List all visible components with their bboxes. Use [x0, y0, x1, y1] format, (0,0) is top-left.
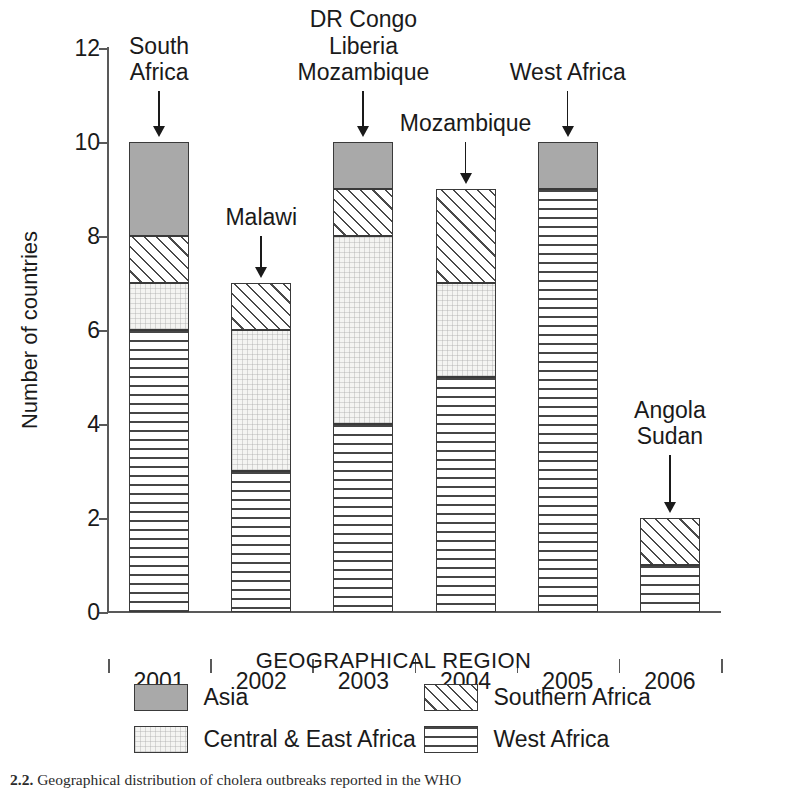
annotation-arrow-2006: [663, 455, 677, 513]
arrow-head-icon: [153, 126, 165, 137]
legend-item-central[interactable]: Central & East Africa: [134, 726, 416, 753]
annotation-label-2002: Malawi: [151, 204, 371, 230]
bar-segment-2004-west[interactable]: [436, 377, 496, 612]
bar-segment-2001-southern[interactable]: [129, 236, 189, 283]
y-tick-label: 6: [87, 319, 100, 342]
legend-item-asia[interactable]: Asia: [134, 684, 249, 711]
legend-swatch-central: [134, 726, 188, 753]
y-tick-label: 8: [87, 225, 100, 248]
plot-area: Number of countries 024681012 South Afri…: [108, 48, 721, 612]
annotation-label-2001: South Africa: [49, 33, 269, 85]
legend-label: Southern Africa: [494, 684, 651, 711]
arrow-shaft: [669, 455, 671, 503]
legend-title: GEOGRAPHICAL REGION: [0, 648, 787, 674]
bar-segment-2001-central[interactable]: [129, 283, 189, 330]
y-tick-label: 4: [87, 413, 100, 436]
bar-segment-2006-southern[interactable]: [640, 518, 700, 565]
legend-label: Asia: [204, 684, 249, 711]
legend-items: AsiaSouthern AfricaCentral & East Africa…: [134, 684, 654, 762]
legend-swatch-west: [424, 726, 478, 753]
legend-label: Central & East Africa: [204, 726, 416, 753]
y-tick-mark: [99, 612, 108, 614]
bar-segment-2002-west[interactable]: [231, 471, 291, 612]
y-tick-mark: [99, 142, 108, 144]
y-tick-mark: [99, 424, 108, 426]
y-tick-mark: [99, 330, 108, 332]
bar-segment-2003-west[interactable]: [333, 424, 393, 612]
bar-segment-2005-asia[interactable]: [538, 142, 598, 189]
arrow-head-icon: [255, 267, 267, 278]
arrow-head-icon: [664, 502, 676, 513]
bar-segment-2006-west[interactable]: [640, 565, 700, 612]
legend-item-southern[interactable]: Southern Africa: [424, 684, 651, 711]
y-tick-mark: [99, 236, 108, 238]
legend: GEOGRAPHICAL REGION AsiaSouthern AfricaC…: [0, 648, 787, 762]
legend-swatch-southern: [424, 684, 478, 711]
figure-caption: 2.2. Geographical distribution of choler…: [10, 770, 785, 789]
bar-2002[interactable]: [231, 48, 291, 612]
bar-segment-2003-asia[interactable]: [333, 142, 393, 189]
annotation-label-2005: West Africa: [458, 59, 678, 85]
annotation-arrow-2001: [152, 91, 166, 137]
legend-label: West Africa: [494, 726, 610, 753]
caption-label: 2.2.: [10, 771, 33, 788]
bar-segment-2004-central[interactable]: [436, 283, 496, 377]
annotation-arrow-2005: [561, 91, 575, 137]
annotation-arrow-2004: [459, 142, 473, 184]
y-tick-label: 2: [87, 507, 100, 530]
bar-segment-2002-central[interactable]: [231, 330, 291, 471]
annotation-arrow-2002: [254, 236, 268, 278]
annotation-label-2003: DR Congo Liberia Mozambique: [253, 6, 473, 85]
bar-segment-2001-west[interactable]: [129, 330, 189, 612]
y-tick-label: 10: [74, 131, 100, 154]
y-axis-title: Number of countries: [17, 231, 43, 429]
arrow-shaft: [567, 91, 569, 127]
bar-segment-2002-southern[interactable]: [231, 283, 291, 330]
annotation-label-2004: Mozambique: [356, 110, 576, 136]
bar-segment-2003-central[interactable]: [333, 236, 393, 424]
annotation-label-2006: Angola Sudan: [560, 397, 780, 449]
y-tick-label: 0: [87, 601, 100, 624]
bar-2006[interactable]: [640, 48, 700, 612]
arrow-shaft: [465, 142, 467, 174]
arrow-head-icon: [562, 126, 574, 137]
arrow-shaft: [260, 236, 262, 268]
bar-segment-2004-southern[interactable]: [436, 189, 496, 283]
caption-text: Geographical distribution of cholera out…: [37, 771, 461, 788]
y-tick-mark: [99, 518, 108, 520]
legend-item-west[interactable]: West Africa: [424, 726, 610, 753]
arrow-head-icon: [460, 173, 472, 184]
arrow-shaft: [158, 91, 160, 127]
legend-swatch-asia: [134, 684, 188, 711]
